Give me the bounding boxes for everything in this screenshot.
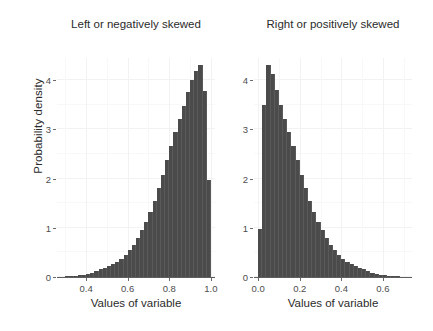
y-tick-mark [53, 277, 56, 278]
y-tick-mark [53, 80, 56, 81]
y-tick-mark [250, 277, 253, 278]
gridline-vertical [128, 58, 129, 277]
x-tick-label: 0.2 [293, 283, 306, 294]
x-axis-line [57, 277, 215, 278]
y-tick-label: 0 [35, 272, 51, 283]
y-tick-label: 3 [35, 124, 51, 135]
gridline-vertical [211, 58, 212, 277]
y-tick-label: 1 [232, 222, 248, 233]
x-tick-label: 0.4 [79, 283, 92, 294]
x-tick-label: 0.6 [376, 283, 389, 294]
x-tick-label: 0.6 [121, 283, 134, 294]
panel-left-x-axis-label: Values of variable [57, 297, 215, 309]
gridline-vertical-minor [65, 58, 66, 277]
panel-left-title: Left or negatively skewed [57, 18, 215, 30]
x-tick-mark [169, 278, 170, 281]
gridline-vertical-minor [404, 58, 405, 277]
panel-right-skewed: Right or positively skewed Values of var… [218, 0, 433, 331]
y-tick-mark [53, 179, 56, 180]
x-tick-mark [300, 278, 301, 281]
y-tick-mark [250, 228, 253, 229]
y-tick-mark [250, 129, 253, 130]
gridline-vertical-minor [107, 58, 108, 277]
gridline-vertical [341, 58, 342, 277]
x-axis-line [254, 277, 412, 278]
y-tick-mark [53, 129, 56, 130]
histogram-bar [207, 180, 211, 277]
y-tick-label: 4 [35, 75, 51, 86]
panel-left-plot-area [57, 58, 215, 277]
x-tick-label: 1.0 [204, 283, 217, 294]
y-tick-label: 4 [232, 75, 248, 86]
gridline-vertical-minor [362, 58, 363, 277]
x-tick-mark [86, 278, 87, 281]
y-tick-label: 0 [232, 272, 248, 283]
x-tick-label: 0.0 [252, 283, 265, 294]
panel-right-plot-area [254, 58, 412, 277]
x-tick-label: 0.4 [335, 283, 348, 294]
x-tick-mark [128, 278, 129, 281]
skewness-histogram-figure: Probability density Left or negatively s… [0, 0, 433, 331]
x-tick-label: 0.8 [163, 283, 176, 294]
y-tick-mark [250, 179, 253, 180]
x-tick-mark [211, 278, 212, 281]
y-tick-mark [53, 228, 56, 229]
panel-right-x-axis-label: Values of variable [254, 297, 412, 309]
gridline-vertical [383, 58, 384, 277]
gridline-horizontal [254, 79, 412, 80]
x-tick-mark [341, 278, 342, 281]
y-tick-label: 2 [35, 173, 51, 184]
y-tick-label: 2 [232, 173, 248, 184]
panel-right-title: Right or positively skewed [254, 18, 412, 30]
y-tick-label: 3 [232, 124, 248, 135]
panel-left-skewed: Left or negatively skewed Values of vari… [0, 0, 218, 331]
x-tick-mark [383, 278, 384, 281]
y-tick-mark [250, 80, 253, 81]
y-tick-label: 1 [35, 222, 51, 233]
gridline-vertical [86, 58, 87, 277]
x-tick-mark [258, 278, 259, 281]
